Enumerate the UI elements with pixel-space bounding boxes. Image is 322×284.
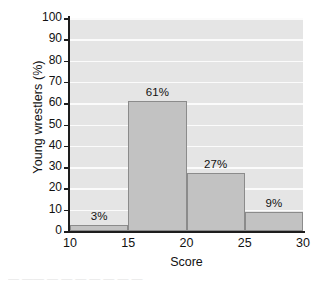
bar bbox=[187, 173, 245, 231]
gridline bbox=[70, 82, 303, 84]
x-tick-label: 15 bbox=[108, 236, 148, 250]
y-tick-label: 70 bbox=[30, 74, 62, 88]
bar-value-label: 3% bbox=[70, 210, 128, 222]
x-tick-label: 10 bbox=[50, 236, 90, 250]
x-tick-label: 30 bbox=[283, 236, 322, 250]
y-tick-label: 30 bbox=[30, 159, 62, 173]
bar bbox=[70, 225, 128, 231]
gridline bbox=[70, 146, 303, 148]
x-tick-label: 20 bbox=[167, 236, 207, 250]
y-tick-label: 80 bbox=[30, 53, 62, 67]
y-tick-mark bbox=[64, 231, 68, 233]
gridline bbox=[70, 18, 303, 20]
bar bbox=[128, 101, 186, 231]
gridline bbox=[70, 61, 303, 63]
y-tick-mark bbox=[64, 146, 68, 148]
y-tick-mark bbox=[64, 103, 68, 105]
bar-value-label: 27% bbox=[187, 158, 245, 170]
figure-caption-clipped: — —— — — — — — — — bbox=[8, 272, 318, 282]
gridline bbox=[70, 125, 303, 127]
y-tick-label: 50 bbox=[30, 117, 62, 131]
gridline bbox=[70, 39, 303, 41]
y-tick-label: 90 bbox=[30, 31, 62, 45]
y-tick-mark bbox=[64, 125, 68, 127]
y-tick-label: 10 bbox=[30, 202, 62, 216]
y-tick-mark bbox=[64, 18, 68, 20]
y-tick-mark bbox=[64, 167, 68, 169]
y-tick-mark bbox=[64, 61, 68, 63]
y-tick-label: 20 bbox=[30, 180, 62, 194]
bar-value-label: 9% bbox=[245, 197, 303, 209]
y-tick-label: 40 bbox=[30, 138, 62, 152]
x-axis-line bbox=[68, 231, 305, 233]
x-axis-title: Score bbox=[70, 255, 303, 269]
x-tick-label: 25 bbox=[225, 236, 265, 250]
y-tick-label: 100 bbox=[30, 10, 62, 24]
bar bbox=[245, 212, 303, 231]
y-tick-mark bbox=[64, 210, 68, 212]
y-tick-label: 0 bbox=[30, 223, 62, 237]
y-tick-label: 60 bbox=[30, 95, 62, 109]
y-tick-mark bbox=[64, 188, 68, 190]
y-axis-line bbox=[68, 16, 70, 233]
y-tick-mark bbox=[64, 82, 68, 84]
histogram-figure: Young wrestlers (%) Score — —— — — — — —… bbox=[0, 0, 322, 284]
bar-value-label: 61% bbox=[128, 86, 186, 98]
y-tick-mark bbox=[64, 39, 68, 41]
gridline bbox=[70, 103, 303, 105]
